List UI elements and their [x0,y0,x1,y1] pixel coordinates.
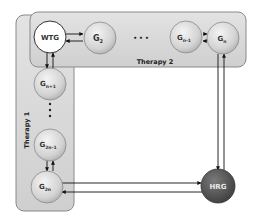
node-g2[interactable]: G2 [84,22,116,54]
ellipsis-horizontal: • • • [133,34,149,41]
node-gn-minus-1[interactable]: Gn-1 [170,21,202,53]
node-wtg[interactable]: WTG [34,21,66,53]
node-hrg[interactable]: HRG [201,169,235,203]
diagram-canvas: Therapy 1 Therapy 2 WTG G2 • [0,0,259,220]
node-gn[interactable]: Gn [207,22,239,54]
therapy-2-label: Therapy 2 [137,58,174,66]
therapy-1-label: Therapy 1 [23,111,31,148]
node-g2n[interactable]: G2n [31,171,63,203]
node-g2n-minus-1[interactable]: G2n-1 [34,129,66,161]
svg-text:WTG: WTG [41,34,59,42]
node-gn-plus-1[interactable]: Gn+1 [34,68,66,100]
svg-text:HRG: HRG [210,183,227,191]
